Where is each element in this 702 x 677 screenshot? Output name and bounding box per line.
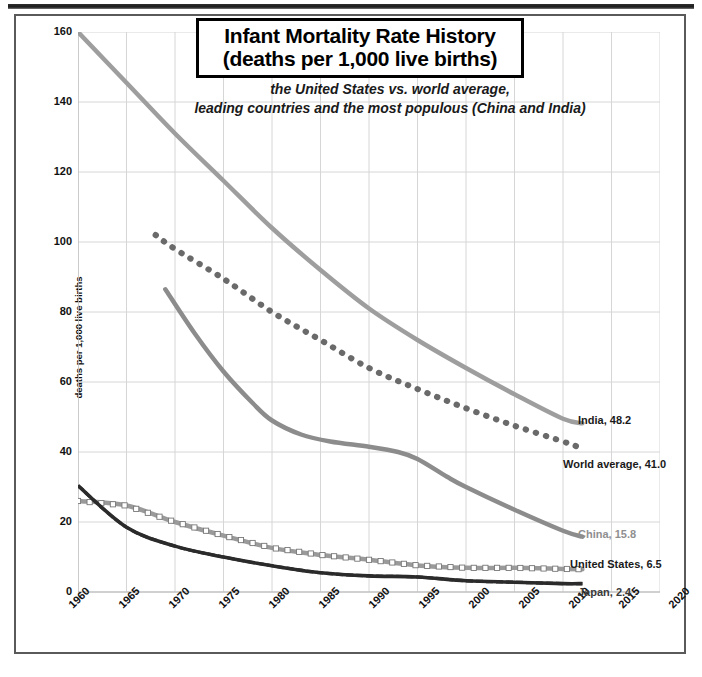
chart-title-box: Infant Mortality Rate History (deaths pe… bbox=[196, 18, 524, 78]
marker-square bbox=[320, 552, 325, 557]
marker-square bbox=[471, 565, 476, 570]
y-tick-60: 60 bbox=[26, 375, 72, 387]
chart-subtitle-line1: the United States vs. world average, bbox=[150, 80, 630, 99]
marker-square bbox=[134, 506, 139, 511]
marker-square bbox=[355, 556, 360, 561]
marker-square bbox=[262, 543, 267, 548]
marker-square bbox=[366, 557, 371, 562]
y-tick-160: 160 bbox=[26, 25, 72, 37]
marker-square bbox=[192, 525, 197, 530]
y-tick-0: 0 bbox=[26, 585, 72, 597]
chart-title-line2: (deaths per 1,000 live births) bbox=[205, 47, 515, 70]
series-label-united-states: United States, 6.5 bbox=[570, 558, 662, 570]
marker-square bbox=[273, 546, 278, 551]
series-label-japan: Japan, 2.4 bbox=[578, 586, 631, 598]
chart-page: 160 140 120 100 80 60 40 20 0 deaths per… bbox=[0, 0, 702, 677]
marker-square bbox=[401, 561, 406, 566]
marker-square bbox=[390, 560, 395, 565]
marker-square bbox=[506, 565, 511, 570]
marker-square bbox=[215, 531, 220, 536]
marker-square bbox=[343, 555, 348, 560]
y-tick-120: 120 bbox=[26, 165, 72, 177]
marker-square bbox=[331, 554, 336, 559]
marker-square bbox=[413, 563, 418, 568]
marker-square bbox=[122, 503, 127, 508]
marker-square bbox=[250, 540, 255, 545]
marker-square bbox=[145, 510, 150, 515]
marker-square bbox=[483, 565, 488, 570]
marker-square bbox=[157, 514, 162, 519]
series-label-india: India, 48.2 bbox=[578, 414, 631, 426]
marker-square bbox=[180, 522, 185, 527]
series-line-united-states-markers bbox=[78, 498, 581, 571]
x-axis-ticks: 1960 1965 1970 1975 1980 1985 1990 1995 … bbox=[78, 596, 678, 640]
marker-square bbox=[541, 566, 546, 571]
page-top-rule bbox=[8, 4, 694, 9]
y-tick-100: 100 bbox=[26, 235, 72, 247]
series-label-world-average: World average, 41.0 bbox=[563, 458, 666, 470]
marker-square bbox=[518, 565, 523, 570]
marker-square bbox=[297, 549, 302, 554]
marker-square bbox=[169, 518, 174, 523]
y-axis-ticks: 160 140 120 100 80 60 40 20 0 deaths per… bbox=[22, 32, 72, 592]
chart-subtitle-line2: leading countries and the most populous … bbox=[150, 99, 630, 118]
marker-square bbox=[227, 535, 232, 540]
marker-square bbox=[110, 502, 115, 507]
marker-square bbox=[238, 537, 243, 542]
chart-title-line1: Infant Mortality Rate History bbox=[205, 24, 515, 47]
y-tick-40: 40 bbox=[26, 445, 72, 457]
y-tick-140: 140 bbox=[26, 95, 72, 107]
series-line-united-states bbox=[78, 501, 582, 569]
marker-square bbox=[564, 566, 569, 571]
marker-square bbox=[553, 566, 558, 571]
marker-square bbox=[529, 566, 534, 571]
y-tick-20: 20 bbox=[26, 515, 72, 527]
series-label-china: China, 15.8 bbox=[578, 528, 636, 540]
marker-square bbox=[494, 565, 499, 570]
marker-square bbox=[203, 528, 208, 533]
y-tick-80: 80 bbox=[26, 305, 72, 317]
marker-square bbox=[78, 498, 81, 503]
marker-square bbox=[448, 564, 453, 569]
marker-square bbox=[285, 548, 290, 553]
marker-square bbox=[460, 565, 465, 570]
series-line-china bbox=[165, 289, 582, 536]
marker-square bbox=[308, 551, 313, 556]
chart-subtitle: the United States vs. world average, lea… bbox=[150, 80, 630, 118]
marker-square bbox=[436, 564, 441, 569]
marker-square bbox=[378, 559, 383, 564]
marker-square bbox=[425, 563, 430, 568]
